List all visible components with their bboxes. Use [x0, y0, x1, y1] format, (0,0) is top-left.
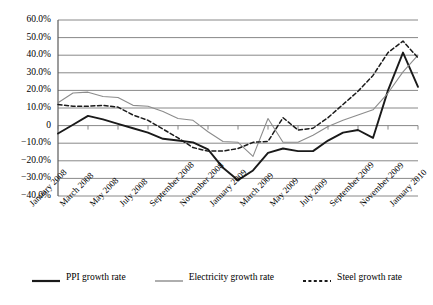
series-line-2	[58, 41, 418, 151]
legend-line-swatch-icon	[302, 272, 332, 282]
legend-line-swatch-icon	[154, 272, 184, 282]
y-tick-label: −20.0%	[21, 156, 51, 166]
y-tick-label: 50.0%	[26, 33, 51, 43]
y-tick-label: 60.0%	[26, 15, 51, 25]
x-axis-tick-labels: January 2008March 2008May 2008July 2008S…	[0, 196, 433, 262]
legend-entry: Electricity growth rate	[154, 272, 274, 282]
legend-entry: Steel growth rate	[302, 272, 402, 282]
y-tick-label: 20.0%	[26, 85, 51, 95]
legend-entry: PPI growth rate	[31, 272, 126, 282]
series-line-0	[58, 53, 418, 181]
y-tick-label: 0	[46, 121, 51, 131]
chart-figure: 60.0%50.0%40.0%30.0%20.0%10.0%0−10.0%−20…	[0, 0, 433, 305]
y-tick-label: 30.0%	[26, 68, 51, 78]
legend-label: Electricity growth rate	[189, 272, 274, 282]
legend-label: Steel growth rate	[337, 272, 402, 282]
chart-legend: PPI growth rateElectricity growth rateSt…	[0, 272, 433, 294]
y-tick-label: 10.0%	[26, 103, 51, 113]
legend-label: PPI growth rate	[66, 272, 126, 282]
legend-line-swatch-icon	[31, 272, 61, 282]
y-tick-label: 40.0%	[26, 50, 51, 60]
y-tick-label: −10.0%	[21, 138, 51, 148]
